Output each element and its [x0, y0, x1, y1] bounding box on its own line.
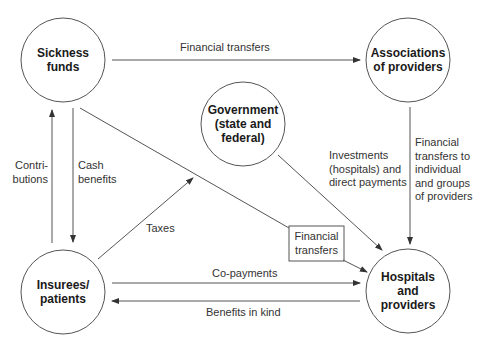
edge-taxes [98, 178, 193, 259]
label-line: federal) [208, 131, 279, 145]
label-line: butions [4, 173, 48, 187]
label-benefits-in-kind: Benefits in kind [206, 306, 281, 320]
label-line: transfers [289, 243, 344, 257]
label-line: transfers to [415, 150, 472, 164]
label-insurees: Insurees/ patients [37, 278, 90, 306]
label-government: Government (state and federal) [208, 103, 279, 145]
edge-box-to-hospitals [343, 260, 367, 272]
label-line: providers [381, 298, 436, 312]
label-line: individual [415, 163, 472, 177]
label-line: Cash [78, 159, 117, 173]
label-line: direct payments [329, 176, 407, 190]
label-associations: Associations of providers [371, 46, 446, 74]
label-cash-benefits: Cash benefits [78, 159, 117, 186]
label-line: Investments [329, 149, 407, 163]
label-funds-to-associations: Financial transfers [180, 41, 270, 55]
label-taxes: Taxes [146, 222, 175, 236]
label-line: of providers [371, 60, 446, 74]
label-line: and groups [415, 177, 472, 191]
label-line: Associations [371, 46, 446, 60]
label-line: funds [37, 60, 89, 74]
label-investments: Investments (hospitals) and direct payme… [329, 149, 407, 190]
label-line: Government [208, 103, 279, 117]
label-line: of providers [415, 190, 472, 204]
label-line: (hospitals) and [329, 163, 407, 177]
label-line: patients [37, 292, 90, 306]
label-line: benefits [78, 173, 117, 187]
label-sickness-funds: Sickness funds [37, 46, 89, 74]
label-copayments: Co-payments [212, 267, 277, 281]
label-line: Financial [415, 136, 472, 150]
label-line: Hospitals [381, 270, 436, 284]
label-line: Insurees/ [37, 278, 90, 292]
label-line: Contri- [4, 159, 48, 173]
label-hospitals: Hospitals and providers [381, 270, 436, 312]
label-line: Sickness [37, 46, 89, 60]
label-associations-to-hospitals: Financial transfers to individual and gr… [415, 136, 472, 204]
label-line: and [381, 284, 436, 298]
label-contributions: Contri- butions [4, 159, 48, 186]
label-line: (state and [208, 117, 279, 131]
label-box-financial-transfers: Financial transfers [289, 229, 344, 257]
label-line: Financial [289, 229, 344, 243]
